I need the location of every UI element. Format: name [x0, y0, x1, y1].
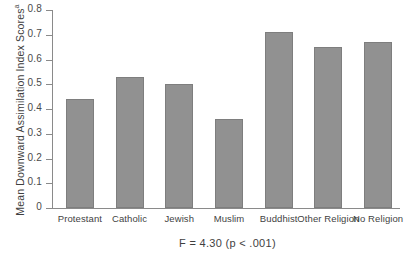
y-axis-tick: 0	[46, 208, 52, 209]
bar	[364, 42, 392, 208]
x-axis-tick-label: No Religion	[341, 213, 413, 224]
chart-footnote: F = 4.30 (p < .001)	[0, 237, 413, 249]
y-axis-tick: 0.7	[46, 35, 52, 36]
y-axis-tick-label: 0.2	[27, 152, 42, 163]
bar	[215, 119, 243, 208]
bar	[165, 84, 193, 208]
y-axis-tick-label: 0.4	[27, 102, 42, 113]
bar	[66, 99, 94, 208]
bar	[116, 77, 144, 208]
y-axis-tick-label: 0.7	[27, 28, 42, 39]
y-axis-tick: 0.6	[46, 60, 52, 61]
y-axis-tick: 0.1	[46, 183, 52, 184]
y-axis-tick: 0.4	[46, 109, 52, 110]
y-axis-tick-label: 0.6	[27, 53, 42, 64]
y-axis-title-text: Mean Downward Assimilation Index Scores	[14, 8, 26, 215]
y-axis-tick-label: 0.5	[27, 77, 42, 88]
y-axis-tick: 0.8	[46, 10, 52, 11]
bar	[314, 47, 342, 208]
x-axis-line	[52, 208, 400, 209]
y-axis-title-superscript: a	[13, 4, 20, 8]
bar	[265, 32, 293, 208]
y-axis-tick-label: 0.3	[27, 127, 42, 138]
y-axis-tick-label: 0.8	[27, 3, 42, 14]
y-axis-title: Mean Downward Assimilation Index Scoresa	[14, 3, 26, 218]
y-axis-line	[52, 10, 53, 209]
plot-area: 00.10.20.30.40.50.60.70.8 ProtestantCath…	[52, 10, 400, 208]
y-axis-tick: 0.3	[46, 134, 52, 135]
y-axis-tick: 0.5	[46, 84, 52, 85]
y-axis-tick-label: 0	[36, 201, 42, 212]
y-axis-tick: 0.2	[46, 159, 52, 160]
bar-chart-figure: Mean Downward Assimilation Index Scoresa…	[0, 0, 413, 262]
y-axis-tick-label: 0.1	[27, 176, 42, 187]
